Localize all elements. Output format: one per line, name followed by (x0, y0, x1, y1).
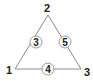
triangle-diagram: 2 1 3 3 5 4 (0, 0, 93, 81)
vertex-label-bottom-left: 1 (6, 64, 12, 76)
vertex-label-top: 2 (44, 2, 50, 14)
edge-circle-label-bottom: 4 (45, 64, 51, 75)
edge-circle-right: 5 (59, 36, 71, 48)
edge-circle-label-right: 5 (62, 37, 68, 48)
vertex-label-bottom-right: 3 (84, 66, 90, 78)
edge-circle-bottom: 4 (42, 63, 54, 75)
edge-circle-label-left: 3 (33, 37, 39, 48)
edge-circle-left: 3 (30, 36, 42, 48)
